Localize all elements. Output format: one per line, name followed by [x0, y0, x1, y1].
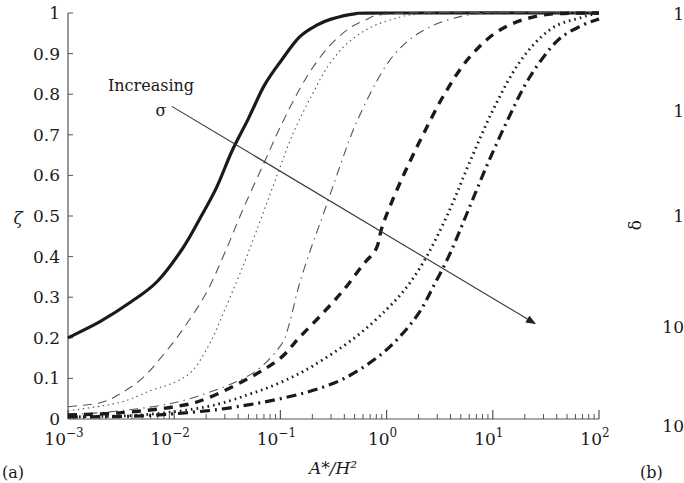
series-line-3 — [68, 12, 599, 411]
y-tick-label: 0.2 — [33, 328, 60, 348]
panel-b-tick-label: 1 — [673, 206, 684, 226]
increasing-sigma-arrow — [172, 106, 535, 323]
x-tick-label: 10−1 — [257, 426, 296, 449]
x-tick-label: 102 — [580, 426, 609, 449]
annotation-text-increasing: Increasing — [108, 76, 194, 95]
y-tick-label: 0.4 — [33, 247, 60, 267]
data-series — [68, 12, 599, 417]
y-tick-label: 0.1 — [33, 368, 60, 388]
y-tick-label: 0.8 — [33, 84, 60, 104]
panel-b-tick-label: 10 — [662, 317, 684, 337]
annotation: Increasingσ — [108, 76, 535, 324]
x-tick-label: 100 — [368, 426, 397, 449]
panel-b-tick-fragments: 1111010 — [662, 4, 684, 436]
y-tick-label: 0 — [49, 409, 60, 429]
y-tick-label: 0.5 — [33, 206, 60, 226]
series-line-4 — [68, 13, 599, 415]
series-line-6 — [68, 13, 599, 417]
axis-labels: ζ A*/H² (a) (b) δ — [2, 208, 663, 482]
series-line-1 — [68, 13, 599, 338]
panel-b-tick-label: 1 — [673, 101, 684, 121]
chart-figure: 00.10.20.30.40.50.60.70.80.9110−310−210−… — [0, 0, 684, 483]
panel-label-b: (b) — [640, 463, 663, 482]
series-line-5 — [68, 13, 599, 415]
x-tick-label: 101 — [474, 426, 503, 449]
x-axis-label: A*/H² — [307, 458, 357, 478]
annotation-text-sigma: σ — [156, 101, 167, 120]
y-tick-label: 0.6 — [33, 165, 60, 185]
y-tick-label: 0.3 — [33, 287, 60, 307]
panel-b-tick-label: 1 — [673, 4, 684, 24]
line-chart: 00.10.20.30.40.50.60.70.80.9110−310−210−… — [0, 0, 684, 483]
y-tick-label: 0.7 — [33, 125, 60, 145]
x-tick-label: 10−2 — [151, 426, 190, 449]
x-tick-label: 10−3 — [44, 426, 83, 449]
y-tick-label: 1 — [49, 3, 60, 23]
y-tick-label: 0.9 — [33, 44, 60, 64]
axes: 00.10.20.30.40.50.60.70.80.9110−310−210−… — [33, 3, 610, 449]
panel-label-a: (a) — [2, 463, 24, 482]
panel-b-y-axis-label: δ — [625, 220, 645, 230]
series-line-2 — [68, 12, 599, 406]
y-axis-label: ζ — [13, 208, 24, 228]
panel-b-tick-label: 10 — [662, 416, 684, 436]
